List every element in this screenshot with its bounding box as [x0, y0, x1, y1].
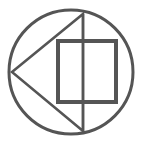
inner-rectangle — [58, 41, 116, 102]
geometric-diagram — [0, 0, 141, 146]
